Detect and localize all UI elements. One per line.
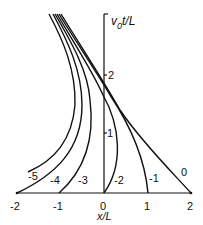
curve-label-minus2: -2 (114, 174, 124, 186)
x-tick-label-minus1: -1 (53, 200, 63, 212)
trajectory-diagram: v0t/L 2 1 -5 -4 -3 -2 -1 0 -2 -1 0 1 2 x… (0, 0, 203, 225)
x-tick-label-1: 1 (144, 200, 150, 212)
curve-label-0: 0 (181, 166, 187, 178)
x-tick-label-minus2: -2 (10, 200, 20, 212)
x-tick-label-2: 2 (187, 200, 193, 212)
y-axis-label: v0t/L (111, 14, 135, 31)
curve-label-minus4: -4 (50, 174, 60, 186)
curve-label-minus1: -1 (149, 172, 159, 184)
curve-label-minus5: -5 (28, 170, 38, 182)
y-tick-label-2: 2 (108, 69, 114, 81)
curve-label-minus3: -3 (78, 174, 88, 186)
x-axis-label: x/L (96, 210, 112, 222)
y-tick-label-1: 1 (107, 127, 113, 139)
